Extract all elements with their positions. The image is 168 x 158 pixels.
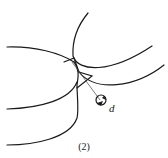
- left-cylinder-side-edge: [7, 62, 78, 145]
- figure-caption: (2): [0, 141, 168, 152]
- left-cylinder-top-edge: [7, 47, 74, 62]
- left-cylinder-middle-edge: [7, 82, 77, 109]
- label-d: d: [109, 102, 115, 114]
- diagram-canvas: d: [0, 0, 168, 158]
- upper-cylinder-outer-edge: [73, 13, 152, 68]
